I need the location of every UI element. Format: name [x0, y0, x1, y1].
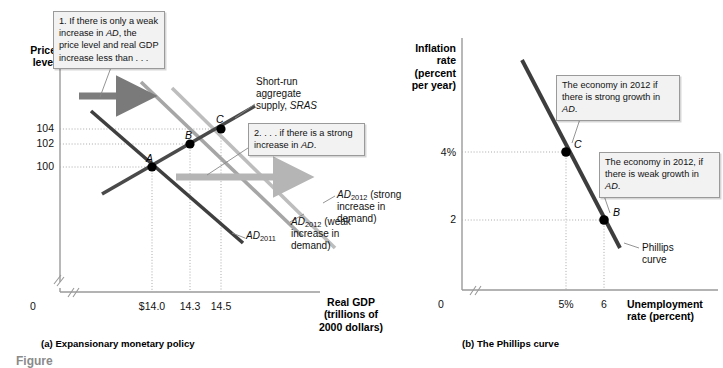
- panel-a-gridlines: [60, 129, 221, 292]
- panel-a-point-label-C: C: [216, 113, 224, 125]
- curve-ad2011: [91, 111, 243, 243]
- panel-b-gridlines: [462, 152, 604, 290]
- panel-a-ytick-104: 104: [22, 122, 54, 134]
- curve-sras: [102, 106, 255, 194]
- phillips-curve-label: Phillipscurve: [642, 242, 674, 266]
- panel-a-origin-label: 0: [30, 300, 36, 312]
- panel-b-xtick-6: 6: [590, 298, 618, 310]
- callout-strong-growth: The economy in 2012 if there is strong g…: [556, 75, 680, 121]
- panel-a-point-label-B: B: [185, 129, 192, 141]
- panel-a-point-label-A: A: [146, 152, 153, 164]
- panel-b-origin-label: 0: [438, 298, 444, 310]
- callout-weak-increase: 1. If there is only a weak increase in A…: [53, 11, 165, 69]
- panel-a-ytick-102: 102: [22, 137, 54, 149]
- figure-word: Figure: [16, 354, 53, 368]
- panel-b-y-axis-title: Inflationrate(percentper year): [388, 42, 456, 92]
- panel-b-ytick-2: 2: [420, 213, 456, 225]
- panel-a-y-axis-title: Pricelevel: [14, 44, 56, 69]
- callout-strong-increase: 2. . . . if there is a strong increase i…: [248, 123, 365, 156]
- panel-a-xtick-14-5: 14.5: [201, 300, 241, 312]
- panel-b-x-axis-title: Unemploymentrate (percent): [627, 298, 723, 323]
- callout-weak-growth: The economy in 2012, if there is weak gr…: [599, 152, 720, 198]
- panel-b-ytick-4pct: 4%: [420, 146, 456, 158]
- panel-b-point-label-C: C: [574, 138, 582, 150]
- sras-curve-label: Short-runaggregatesupply, SRAS: [256, 76, 317, 111]
- ad2011-curve-label: AD2011: [246, 230, 276, 242]
- panel-a-x-axis-title: Real GDP(trillions of2000 dollars): [296, 296, 406, 333]
- panel-a-caption: (a) Expansionary monetary policy: [41, 338, 195, 349]
- ad2012-strong-curve-label: AD2012 (strongincrease indemand): [337, 189, 407, 224]
- panel-b-xtick-5pct: 5%: [548, 298, 584, 310]
- panel-b-point-label-B: B: [613, 206, 620, 218]
- panel-b-caption: (b) The Phillips curve: [462, 338, 559, 349]
- panel-a-ytick-100: 100: [22, 160, 54, 172]
